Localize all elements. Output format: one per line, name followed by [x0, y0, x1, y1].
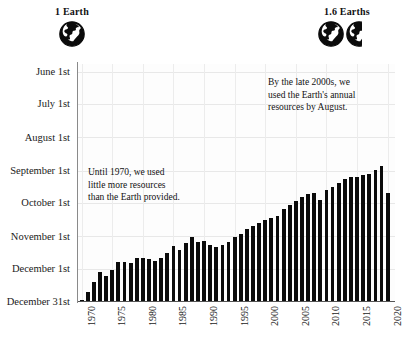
- bar: [282, 209, 286, 301]
- annotation-line: By the late 2000s, we: [268, 76, 390, 89]
- annotation-line: Until 1970, we used: [88, 166, 218, 179]
- legend-one-earth-label: 1 Earth: [55, 6, 89, 18]
- bar: [355, 177, 359, 301]
- legend-one-earth: 1 Earth: [55, 6, 89, 47]
- annotation-line: used the Earth's annual: [268, 89, 390, 102]
- bar: [239, 234, 243, 301]
- globe-icon: [59, 21, 85, 47]
- bar: [129, 263, 133, 301]
- bar: [153, 261, 157, 301]
- bar: [178, 250, 182, 301]
- bar: [147, 259, 151, 301]
- bar: [337, 183, 341, 302]
- bar: [245, 229, 249, 301]
- y-axis-tick-label: August 1st: [0, 132, 70, 143]
- bar: [276, 216, 280, 301]
- bar: [257, 223, 261, 301]
- bar: [116, 262, 120, 301]
- bar: [325, 190, 329, 301]
- x-axis-tick-label: 2015: [361, 306, 372, 326]
- bar: [318, 200, 322, 301]
- bar: [165, 253, 169, 301]
- bar: [312, 193, 316, 301]
- bar: [135, 258, 139, 301]
- bar: [251, 226, 255, 301]
- y-axis-tick-label: July 1st: [0, 98, 70, 109]
- bar: [294, 201, 298, 301]
- bar: [184, 243, 188, 301]
- x-axis-tick-label: 2005: [300, 306, 311, 326]
- bar: [86, 292, 90, 301]
- y-axis-tick-label: October 1st: [0, 197, 70, 208]
- bar: [104, 276, 108, 301]
- bar: [98, 272, 102, 301]
- annotation-line: resources by August.: [268, 101, 390, 114]
- bar: [331, 187, 335, 301]
- annotation-line: than the Earth provided.: [88, 191, 218, 204]
- legend-one-point-six-earths-globes: [318, 21, 362, 51]
- x-axis-tick-label: 2020: [392, 306, 403, 326]
- x-axis-tick-label: 2000: [269, 306, 280, 326]
- bar: [221, 245, 225, 301]
- bar: [214, 247, 218, 301]
- y-axis-tick-label: December 31st: [0, 296, 70, 307]
- bar: [374, 170, 378, 301]
- bar: [208, 245, 212, 301]
- y-axis-tick-label: September 1st: [0, 165, 70, 176]
- bar: [110, 270, 114, 301]
- annotation-line: little more resources: [88, 179, 218, 192]
- globe-partial-clip: [346, 21, 362, 51]
- bar: [349, 177, 353, 301]
- bar: [269, 218, 273, 301]
- globe-icon: [318, 21, 344, 47]
- bar: [380, 166, 384, 301]
- x-axis-tick-label: 2010: [330, 306, 341, 326]
- annotation-late-2000s: By the late 2000s, weused the Earth's an…: [268, 76, 390, 114]
- globe-partial-icon: [346, 21, 362, 47]
- y-axis-tick-label: June 1st: [0, 66, 70, 77]
- x-axis-tick-label: 1980: [147, 306, 158, 326]
- y-axis-tick-label: December 1st: [0, 263, 70, 274]
- legend-one-earth-globes: [59, 21, 85, 47]
- legend-one-point-six-earths-label: 1.6 Earths: [324, 6, 370, 18]
- x-axis-tick-label: 1990: [208, 306, 219, 326]
- bar: [172, 246, 176, 301]
- bar: [190, 237, 194, 301]
- annotation-until-1970: Until 1970, we usedlittle more resources…: [88, 166, 218, 204]
- bar: [141, 258, 145, 301]
- bar: [202, 241, 206, 301]
- bar: [123, 262, 127, 301]
- bar: [159, 258, 163, 301]
- y-axis-tick-label: November 1st: [0, 231, 70, 242]
- bar: [196, 242, 200, 301]
- bar: [306, 194, 310, 301]
- bar: [263, 220, 267, 301]
- bar: [367, 174, 371, 301]
- x-axis-tick-label: 1970: [86, 306, 97, 326]
- bar: [386, 193, 390, 301]
- bar: [233, 237, 237, 301]
- bar: [80, 300, 84, 301]
- x-axis-tick-label: 1975: [116, 306, 127, 326]
- bar: [300, 197, 304, 301]
- bar: [288, 205, 292, 301]
- bar: [227, 242, 231, 301]
- legend-one-point-six-earths: 1.6 Earths: [318, 6, 370, 51]
- x-axis-tick-label: 1985: [177, 306, 188, 326]
- x-axis-line: [78, 301, 395, 302]
- bar: [343, 179, 347, 301]
- x-axis-tick-label: 1995: [239, 306, 250, 326]
- bar: [361, 175, 365, 301]
- bar: [92, 282, 96, 301]
